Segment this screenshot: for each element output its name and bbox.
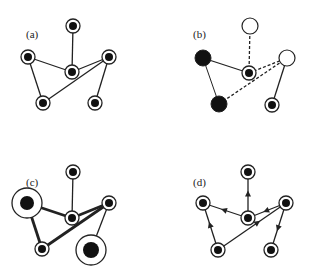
- node-bottom-left: [211, 96, 227, 112]
- node-center: [242, 66, 256, 80]
- node-right: [102, 196, 116, 210]
- graph-diagram: (a) (b) (c) (d): [0, 0, 315, 274]
- node-top: [242, 18, 258, 34]
- node-center: [241, 211, 255, 225]
- arrow-head-icon: [245, 190, 251, 196]
- panel-c: (c): [12, 165, 116, 265]
- node-bottom-right: [88, 96, 102, 110]
- node-center: [65, 211, 79, 225]
- edge-bottom-left-right: [219, 58, 287, 104]
- node-left: [12, 188, 42, 218]
- arrow-head-icon: [221, 208, 228, 214]
- node-right: [279, 50, 295, 66]
- panel-d: (d): [193, 165, 293, 257]
- panel-label-a: (a): [26, 28, 39, 41]
- node-right: [279, 196, 293, 210]
- node-left: [195, 50, 211, 66]
- node-bottom-left: [35, 242, 49, 256]
- node-top: [66, 19, 80, 33]
- node-left: [21, 50, 35, 64]
- panel-b: (b): [193, 18, 295, 112]
- node-top: [241, 165, 255, 179]
- node-bottom-left: [36, 96, 50, 110]
- node-bottom-right: [76, 235, 106, 265]
- panel-a: (a): [21, 19, 116, 110]
- edge-bottom-left-right: [218, 203, 286, 250]
- node-bottom-left: [211, 243, 225, 257]
- node-top: [66, 165, 80, 179]
- node-left: [196, 196, 210, 210]
- panel-label-b: (b): [193, 28, 206, 41]
- node-bottom-right: [265, 98, 279, 112]
- panel-label-d: (d): [193, 176, 206, 189]
- node-right: [102, 50, 116, 64]
- node-bottom-right: [264, 243, 278, 257]
- node-center: [65, 65, 79, 79]
- panel-label-c: (c): [26, 176, 39, 189]
- edge-bottom-left-right: [43, 57, 109, 103]
